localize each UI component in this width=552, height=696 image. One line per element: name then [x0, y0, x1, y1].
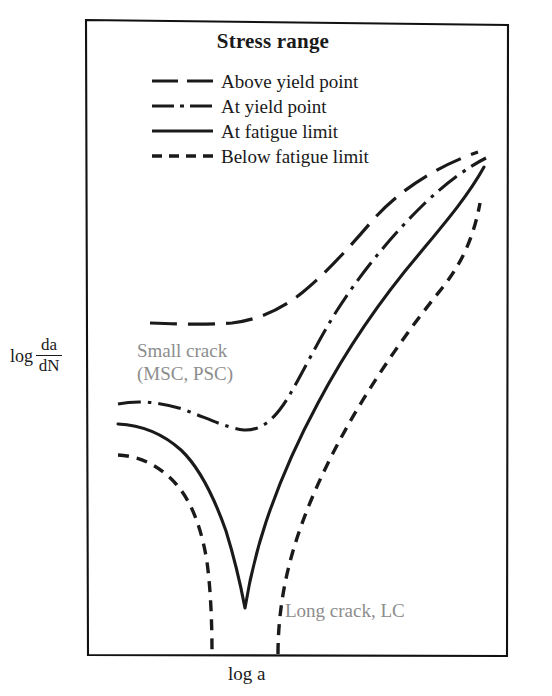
figure-root: Stress range Above yield point At yield … [0, 0, 552, 696]
annotation-long-crack: Long crack, LC [285, 601, 405, 620]
annotation-small-crack-line1: Small crack [137, 341, 227, 360]
y-axis-label: log da dN [10, 336, 62, 375]
curve-above-yield-point [150, 152, 478, 324]
legend-title: Stress range [0, 31, 549, 52]
y-axis-label-fraction: da dN [36, 336, 62, 375]
y-axis-label-denominator: dN [37, 356, 62, 375]
legend-label-above-yield-point: Above yield point [221, 72, 358, 91]
annotation-small-crack-line2: (MSC, PSC) [137, 364, 233, 383]
curve-below-fatigue-limit-left-branch [118, 455, 212, 654]
legend-label-at-yield-point: At yield point [221, 97, 327, 116]
legend-label-below-fatigue-limit: Below fatigue limit [221, 147, 369, 166]
y-axis-label-prefix: log [10, 347, 33, 365]
legend-samples [152, 81, 213, 156]
x-axis-label: log a [228, 664, 265, 683]
y-axis-label-numerator: da [39, 336, 59, 355]
curve-below-fatigue-limit-right-branch [278, 203, 480, 654]
curve-at-fatigue-limit [118, 167, 484, 608]
legend-label-at-fatigue-limit: At fatigue limit [221, 122, 338, 141]
